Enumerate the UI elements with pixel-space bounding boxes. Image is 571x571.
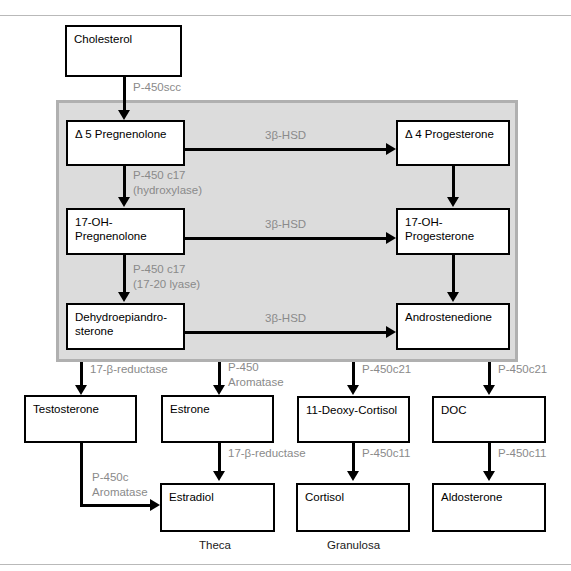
node-cholesterol[interactable]: Cholesterol xyxy=(65,25,182,77)
node-delta4-progesterone[interactable]: Δ 4 Progesterone xyxy=(396,120,510,166)
arrowhead-17oh-progesterone-to-deoxycortisol xyxy=(347,385,359,395)
node-11-deoxy-cortisol[interactable]: 11-Deoxy-Cortisol xyxy=(297,396,410,443)
enzyme-label-p450-aromatase: P-450 Aromatase xyxy=(228,360,284,390)
connector-dhea-to-androstenedione xyxy=(185,331,391,334)
caption-theca: Theca xyxy=(199,539,231,551)
enzyme-label-p450scc: P-450scc xyxy=(133,80,181,95)
arrowhead-dhea-to-androstenedione xyxy=(386,326,396,338)
arrowhead-doc-to-aldosterone xyxy=(483,471,495,481)
arrowhead-deoxycortisol-to-cortisol xyxy=(347,471,359,481)
connector-pregnenolone-to-progesterone xyxy=(185,148,391,151)
enzyme-label-p450c-aromatase: P-450c Aromatase xyxy=(92,470,148,500)
connector-17oh-progesterone-to-androstenedione xyxy=(452,255,455,297)
node-doc[interactable]: DOC xyxy=(432,396,546,443)
arrowhead-estrone-to-estradiol xyxy=(213,471,225,481)
node-17-oh-progesterone[interactable]: 17-OH-Progesterone xyxy=(396,208,510,255)
enzyme-label-p450c21-right: P-450c21 xyxy=(498,362,547,377)
enzyme-label-3b-hsd-top: 3β-HSD xyxy=(265,128,306,143)
node-delta5-pregnenolone[interactable]: Δ 5 Pregnenolone xyxy=(66,120,185,166)
enzyme-label-17b-reductase-right: 17-β-reductase xyxy=(228,446,306,461)
arrowhead-testosterone-to-estradiol xyxy=(150,499,160,511)
enzyme-label-p450c11-right: P-450c11 xyxy=(498,446,546,461)
node-aldosterone[interactable]: Aldosterone xyxy=(432,483,546,532)
enzyme-label-3b-hsd-middle: 3β-HSD xyxy=(265,217,306,232)
enzyme-label-3b-hsd-bottom: 3β-HSD xyxy=(265,311,306,326)
node-estradiol[interactable]: Estradiol xyxy=(160,483,275,532)
enzyme-label-p450c21-left: P-450c21 xyxy=(362,362,411,377)
arrowhead-progesterone-to-17oh-progesterone xyxy=(447,197,459,207)
caption-granulosa: Granulosa xyxy=(327,539,380,551)
enzyme-label-p450c17-lyase: P-450 c17 (17-20 lyase) xyxy=(133,262,200,292)
node-androstenedione[interactable]: Androstenedione xyxy=(396,303,510,350)
arrowhead-17oh-progesterone-to-androstenedione xyxy=(447,292,459,302)
enzyme-label-p450c17-hydroxylase: P-450 c17 (hydroxylase) xyxy=(133,168,202,198)
node-17-oh-pregnenolone[interactable]: 17-OH-Pregnenolone xyxy=(66,208,185,255)
arrowhead-pregnenolone-to-17oh-pregnenolone xyxy=(118,197,130,207)
node-dehydroepiandrosterone[interactable]: Dehydroepiandro- sterone xyxy=(66,303,185,350)
pathway-diagram: P-450scc P-450 c17 (hydroxylase) P-450 c… xyxy=(0,0,571,571)
connector-17oh-pregnenolone-to-17oh-progesterone xyxy=(185,237,391,240)
connector-cholesterol-to-pregnenolone xyxy=(123,77,126,113)
page-edge-line-bottom xyxy=(0,564,571,565)
connector-17oh-pregnenolone-to-dhea xyxy=(123,255,126,297)
arrowhead-androstenedione-to-estrone xyxy=(213,385,225,395)
arrowhead-dhea-to-testosterone xyxy=(75,385,87,395)
arrowhead-pregnenolone-to-progesterone xyxy=(386,143,396,155)
connector-testosterone-to-estradiol-horizontal xyxy=(80,504,155,507)
page-edge-line-top xyxy=(0,15,571,16)
enzyme-label-17b-reductase-left: 17-β-reductase xyxy=(90,362,168,377)
node-cortisol[interactable]: Cortisol xyxy=(296,483,410,532)
arrowhead-cholesterol-to-pregnenolone xyxy=(118,110,130,120)
arrowhead-17oh-pregnenolone-to-dhea xyxy=(118,292,130,302)
arrowhead-progesterone-to-doc xyxy=(483,385,495,395)
node-estrone[interactable]: Estrone xyxy=(161,395,274,443)
node-testosterone[interactable]: Testosterone xyxy=(24,395,137,443)
enzyme-label-p450c11-left: P-450c11 xyxy=(362,446,410,461)
arrowhead-17oh-pregnenolone-to-17oh-progesterone xyxy=(386,232,396,244)
connector-testosterone-to-estradiol-vertical xyxy=(80,443,83,506)
